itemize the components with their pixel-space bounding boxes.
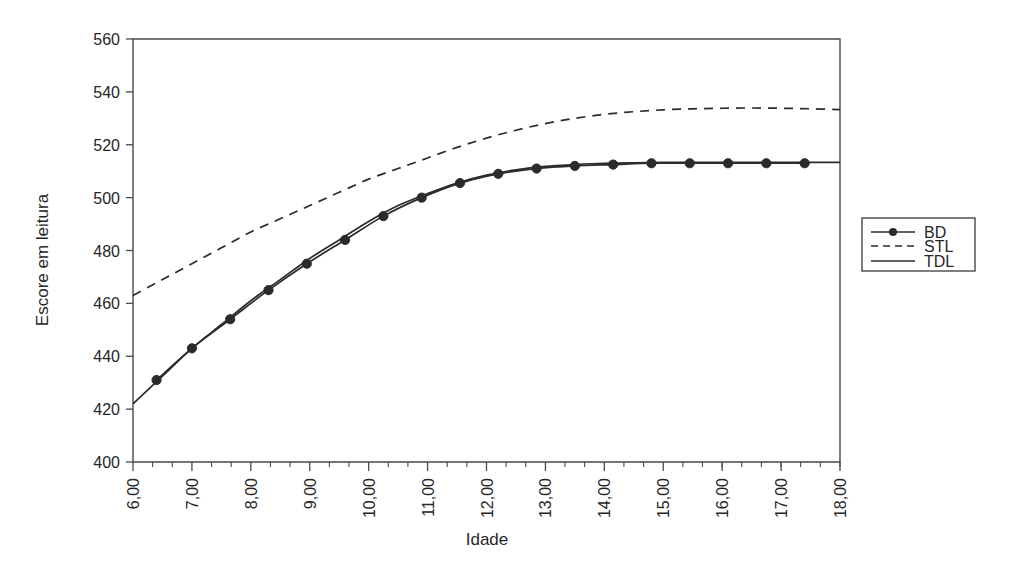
- y-axis-tick-labels: 400420440460480500520540560: [93, 31, 120, 471]
- x-tick-label-18: 18,00: [832, 478, 849, 518]
- y-tick-label-500: 500: [93, 190, 120, 207]
- x-tick-label-6: 6,00: [125, 478, 142, 509]
- legend-box: [862, 218, 975, 271]
- legend-label-tdl: TDL: [924, 253, 954, 270]
- data-point-bd-10: [532, 164, 541, 173]
- y-tick-label-560: 560: [93, 31, 120, 48]
- x-tick-label-15: 15,00: [655, 478, 672, 518]
- y-axis-title: Escore em leitura: [33, 193, 52, 326]
- y-tick-label-460: 460: [93, 295, 120, 312]
- data-point-bd-11: [570, 161, 579, 170]
- legend: BD STL TDL: [862, 218, 975, 271]
- x-tick-label-12: 12,00: [479, 478, 496, 518]
- x-tick-label-8: 8,00: [243, 478, 260, 509]
- x-tick-label-16: 16,00: [714, 478, 731, 518]
- y-tick-label-540: 540: [93, 84, 120, 101]
- x-tick-label-7: 7,00: [184, 478, 201, 509]
- chart-background: [0, 0, 1014, 567]
- data-point-bd-12: [609, 160, 618, 169]
- x-tick-label-9: 9,00: [302, 478, 319, 509]
- x-tick-label-17: 17,00: [773, 478, 790, 518]
- legend-swatch-bd-marker: [889, 228, 897, 236]
- x-tick-label-13: 13,00: [537, 478, 554, 518]
- y-tick-label-420: 420: [93, 401, 120, 418]
- reading-score-by-age-chart: 400420440460480500520540560 6,007,008,00…: [0, 0, 1014, 567]
- y-tick-label-400: 400: [93, 454, 120, 471]
- x-tick-label-11: 11,00: [420, 478, 437, 517]
- y-tick-label-520: 520: [93, 137, 120, 154]
- y-tick-label-440: 440: [93, 348, 120, 365]
- x-axis-title: Idade: [466, 530, 509, 549]
- data-point-bd-0: [152, 375, 161, 384]
- y-tick-label-480: 480: [93, 243, 120, 260]
- x-tick-label-10: 10,00: [361, 478, 378, 518]
- x-tick-label-14: 14,00: [596, 478, 613, 518]
